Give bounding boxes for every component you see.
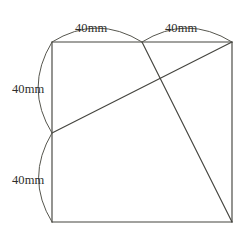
dimension-label-left-upper: 40mm — [12, 83, 44, 96]
diagonal-left-mid-to-top-right — [52, 42, 232, 133]
diagonal-top-mid-to-bottom-right — [142, 42, 232, 222]
dimension-label-left-lower: 40mm — [12, 174, 44, 187]
dimension-label-top-right: 40mm — [165, 22, 197, 35]
internal-diagonals — [52, 42, 232, 222]
geometry-figure: 40mm 40mm 40mm 40mm — [0, 0, 248, 238]
shape-outline — [52, 42, 232, 222]
figure-canvas — [0, 0, 248, 238]
dimension-label-top-left: 40mm — [75, 22, 107, 35]
